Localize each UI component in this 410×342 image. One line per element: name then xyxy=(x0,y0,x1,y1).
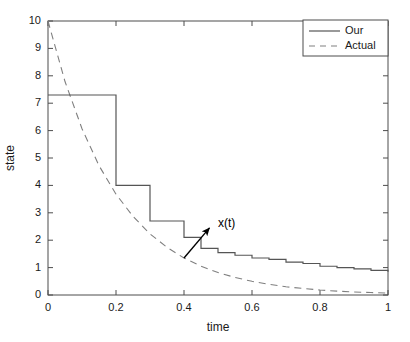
y-tick-label: 7 xyxy=(35,96,41,108)
x-tick-label: 0 xyxy=(45,301,51,313)
y-tick-label: 4 xyxy=(35,178,41,190)
x-tick-label: 1 xyxy=(385,301,391,313)
chart-figure: 00.20.40.60.81 012345678910 x(t) time st… xyxy=(0,0,410,342)
y-tick-label: 1 xyxy=(35,261,41,273)
x-tick-label: 0.2 xyxy=(108,301,123,313)
legend-label-our: Our xyxy=(345,24,364,36)
y-tick-label: 9 xyxy=(35,41,41,53)
annotation-label: x(t) xyxy=(218,216,235,230)
y-axis-title: state xyxy=(3,145,17,171)
y-tick-label: 6 xyxy=(35,124,41,136)
legend: Our Actual xyxy=(303,20,388,56)
y-tick-label: 10 xyxy=(29,14,41,26)
y-tick-label: 0 xyxy=(35,288,41,300)
y-tick-label: 3 xyxy=(35,206,41,218)
x-axis-title: time xyxy=(207,320,230,334)
y-tick-label: 8 xyxy=(35,69,41,81)
y-tick-label: 2 xyxy=(35,233,41,245)
legend-label-actual: Actual xyxy=(345,39,376,51)
x-tick-label: 0.8 xyxy=(312,301,327,313)
x-tick-label: 0.4 xyxy=(176,301,191,313)
y-tick-label: 5 xyxy=(35,151,41,163)
x-tick-label: 0.6 xyxy=(244,301,259,313)
